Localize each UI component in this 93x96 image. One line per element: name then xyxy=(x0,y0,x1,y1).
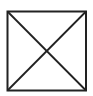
x-box-icon xyxy=(0,0,93,96)
crossed-square-diagram xyxy=(0,0,93,96)
